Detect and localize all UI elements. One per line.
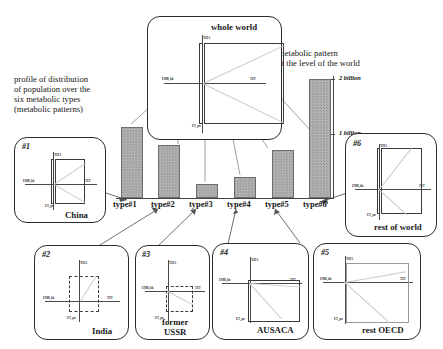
mp-value-rect-inner — [51, 159, 54, 204]
panel-india[interactable]: #2 India THA TET EMR_hh ET_pw — [34, 245, 129, 340]
link-restoecd-type5 — [275, 209, 300, 243]
mp-axis-label-right: TET — [107, 297, 113, 301]
mp-axis-label-bottom: ET_pw — [67, 317, 76, 321]
bar-label-type4: type#4 — [227, 200, 251, 210]
mp-axis-label-top: THA — [80, 261, 87, 265]
mp-value-rect — [204, 43, 284, 124]
right-caption: metabolic pattern at the level of the wo… — [278, 48, 428, 68]
panel-former-ussr[interactable]: #3 former USSR THA TET EMR_hh ET_pw — [135, 245, 210, 340]
bar-label-type6: type#6 — [303, 200, 327, 210]
mp-rest-oecd: THA TET EMR_hh ET_pw — [319, 252, 418, 328]
mp-axis-label-left: EMR_hh — [162, 78, 173, 82]
bar-label-type3: type#3 — [189, 200, 213, 210]
mp-china: THA TET EMR_hh ET_pw — [21, 146, 103, 212]
link-ausaca-type4 — [228, 209, 236, 244]
mp-axis-label-left: EMR_hh — [352, 185, 363, 189]
bar-label-type2: type#2 — [151, 200, 175, 210]
mp-ausaca: THA TET EMR_hh ET_pw — [218, 252, 306, 328]
mp-value-rect — [166, 286, 193, 312]
mp-whole-world: THA TET EMR_hh ET_pw — [158, 27, 273, 135]
bar-type6[interactable] — [309, 79, 331, 198]
bar-type3[interactable] — [196, 184, 218, 198]
panel-rest-of-world-title: rest of world — [374, 222, 422, 232]
bar-label-type5: type#5 — [265, 200, 289, 210]
panel-rest-of-world[interactable]: #6 rest of world THA TET EMR_hh ET_pw — [345, 133, 437, 237]
mp-axis-label-top: THA — [169, 261, 176, 265]
mp-india: THA TET EMR_hh ET_pw — [41, 255, 126, 329]
mp-axis-label-bottom: ET_pw — [236, 318, 245, 322]
mp-axis-label-left: EMR_hh — [43, 297, 54, 301]
mp-value-rect-inner — [377, 148, 380, 214]
mp-axis-label-bottom: ET_pw — [155, 317, 164, 321]
bar-type4[interactable] — [234, 177, 256, 198]
mp-axis-label-right: TET — [290, 279, 296, 283]
tick-label-2-billion: 2 billion — [339, 74, 361, 82]
mp-axis-label-right: TET — [400, 278, 406, 282]
mp-axis-label-top: THA — [54, 153, 61, 157]
panel-ausaca[interactable]: #4 AUSACA THA TET EMR_hh ET_pw — [212, 243, 309, 340]
mp-axis-label-right: TET — [195, 287, 201, 291]
mp-axis-label-top: THA — [203, 36, 210, 40]
mp-axis-label-left: EMR_hh — [142, 287, 153, 291]
link-ussr-type3 — [156, 209, 196, 248]
figure-canvas: profile of distribution of population ov… — [0, 0, 443, 349]
bar-type1[interactable] — [121, 127, 143, 198]
mp-axis-label-bottom: ET_pw — [367, 214, 376, 218]
link-world-type4 — [232, 134, 240, 175]
panel-china[interactable]: #1 China THA TET EMR_hh ET_pw — [14, 137, 106, 223]
bar-type5[interactable] — [272, 150, 294, 198]
panel-whole-world[interactable]: whole world THA TET EMR_hh ET_pw — [147, 16, 282, 140]
mp-axis-label-left: EMR_hh — [320, 278, 331, 282]
bar-type2[interactable] — [158, 145, 180, 198]
mp-axis-label-right: TET — [85, 180, 91, 184]
mp-axis-label-right: TET — [419, 185, 425, 189]
mp-former-ussr: THA TET EMR_hh ET_pw — [141, 255, 209, 329]
mp-axis-label-bottom: ET_pw — [334, 318, 343, 322]
panel-rest-oecd[interactable]: #5 rest OECD THA TET EMR_hh ET_pw — [313, 243, 421, 340]
chart-baseline — [116, 198, 334, 199]
mp-axis-label-top: THA — [380, 144, 387, 148]
mp-rest-of-world: THA TET EMR_hh ET_pw — [351, 140, 435, 222]
left-caption: profile of distribution of population ov… — [14, 74, 140, 115]
mp-axis-label-top: THA — [251, 258, 258, 262]
mp-value-rect — [381, 148, 422, 214]
mp-axis-label-left: EMR_hh — [23, 180, 34, 184]
mp-axis-label-right: TET — [250, 78, 256, 82]
mp-axis-label-left: EMR_hh — [219, 279, 230, 283]
mp-axis-label-top: THA — [346, 257, 353, 261]
chart-value-axis — [333, 76, 334, 199]
mp-axis-label-bottom: ET_pw — [45, 205, 54, 209]
bar-label-type1: type#1 — [113, 200, 137, 210]
mp-axis-label-bottom: ET_pw — [192, 125, 201, 129]
